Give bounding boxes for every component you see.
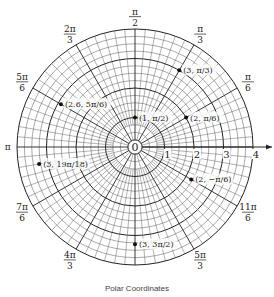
angle-label-numerator: 7π	[16, 202, 28, 212]
axis-arrow-icon	[266, 145, 272, 150]
angle-label-numerator: 2π	[64, 24, 76, 34]
plotted-point	[37, 162, 41, 166]
angle-label-numerator: 5π	[194, 250, 206, 260]
angle-label-numerator: 11π	[239, 202, 256, 212]
angle-label-denominator: 6	[19, 83, 25, 93]
radial-label: 4	[253, 149, 259, 160]
minor-ray	[139, 31, 156, 125]
point-label: (2, −π/6)	[195, 175, 231, 184]
plotted-point	[59, 102, 63, 106]
origin-label: 0	[132, 141, 139, 154]
angle-label-denominator: 3	[67, 261, 73, 271]
angle-label-denominator: 6	[245, 83, 251, 93]
angle-label-denominator: 3	[197, 261, 203, 271]
radial-label: 1	[164, 149, 170, 160]
angle-label-numerator: 5π	[16, 72, 28, 82]
angle-label-numerator: π	[245, 72, 251, 82]
angle-label-numerator: π	[132, 7, 138, 17]
angle-label-numerator: 4π	[64, 250, 76, 260]
minor-ray	[157, 127, 251, 144]
angle-label: π	[5, 142, 11, 152]
angle-label-denominator: 2	[132, 18, 138, 28]
point-label: (2.6, 5π/6)	[65, 100, 107, 109]
plotted-point	[133, 242, 137, 246]
angle-label-denominator: 3	[197, 35, 203, 45]
minor-ray	[19, 127, 113, 144]
polar-grid: 01234π2π3π62π35π6π7π64π35π311π6(3, π/3)(…	[0, 0, 274, 297]
plotted-point	[133, 116, 137, 120]
caption: Polar Coordinates	[0, 284, 274, 293]
point-label: (3, 3π/2)	[139, 240, 174, 249]
minor-ray	[115, 169, 132, 263]
angle-label-denominator: 6	[19, 213, 25, 223]
angle-label-denominator: 3	[67, 35, 73, 45]
minor-ray	[115, 31, 132, 125]
plotted-point	[177, 68, 181, 72]
plotted-point	[184, 116, 188, 120]
radial-label: 3	[223, 149, 229, 160]
radial-label: 2	[194, 149, 200, 160]
point-label: (1, π/2)	[139, 114, 168, 123]
point-label: (3, 19π/18)	[43, 160, 88, 169]
plotted-point	[189, 177, 193, 181]
angle-label-denominator: 6	[245, 213, 251, 223]
point-label: (3, π/3)	[183, 66, 212, 75]
angle-label-numerator: π	[197, 24, 203, 34]
point-label: (2, π/6)	[190, 114, 219, 123]
